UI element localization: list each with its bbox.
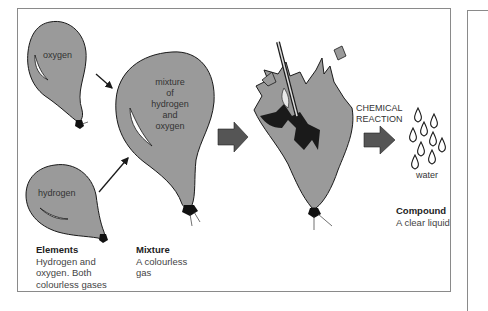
arrow-oxygen-to-mixture-icon: [96, 74, 112, 88]
exploding-balloon-icon: [254, 42, 353, 230]
arrow-hydrogen-to-mixture-icon: [99, 158, 128, 192]
hydrogen-balloon-icon: [26, 165, 108, 243]
mixture-caption: Mixture A colourless gas: [136, 244, 187, 279]
oxygen-label: oxygen: [43, 50, 72, 61]
elements-caption: Elements Hydrogen and oxygen. Both colou…: [36, 244, 107, 290]
compound-caption: Compound A clear liquid: [396, 205, 450, 228]
water-drops-icon: [410, 108, 446, 169]
oxygen-balloon-icon: [28, 21, 88, 129]
block-arrow-to-explosion-icon: [218, 122, 248, 152]
water-label: water: [416, 170, 438, 181]
mixture-label: mixture of hydrogen and oxygen: [145, 77, 195, 132]
block-arrow-reaction-icon: [364, 126, 395, 154]
hydrogen-label: hydrogen: [38, 188, 76, 199]
chemical-reaction-label: CHEMICAL REACTION: [356, 103, 403, 125]
